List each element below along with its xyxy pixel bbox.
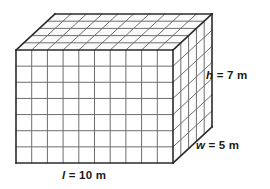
height-label: h = 7 m <box>206 70 247 82</box>
length-symbol: l <box>62 169 65 181</box>
prism-diagram: h = 7 m w = 5 m l = 10 m <box>0 0 270 189</box>
width-symbol: w <box>196 139 205 151</box>
prism-illustration <box>0 0 270 189</box>
height-symbol: h <box>206 69 213 81</box>
width-value: = 5 m <box>209 139 240 151</box>
length-value: = 10 m <box>69 169 106 181</box>
length-label: l = 10 m <box>62 170 106 182</box>
width-label: w = 5 m <box>196 140 239 152</box>
height-value: = 7 m <box>217 69 248 81</box>
